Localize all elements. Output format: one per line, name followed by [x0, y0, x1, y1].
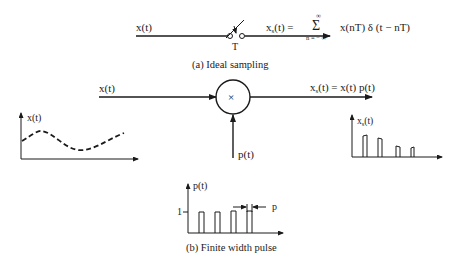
pulse-4	[247, 211, 252, 233]
sum-body: x(nT) δ (t − nT)	[340, 21, 410, 34]
ideal-sampling-block	[136, 20, 330, 39]
sum-symbol: Σ	[312, 18, 320, 33]
output-eq-b: xs(t) = x(t) p(t)	[310, 81, 375, 95]
sampled-pulse-3	[396, 146, 400, 157]
pulse-amplitude-label: 1	[177, 206, 182, 217]
sampled-pulse-4	[411, 147, 414, 157]
sampled-pulse-2	[378, 138, 382, 157]
input-label-b: x(t)	[99, 82, 115, 95]
pulse-width-label: p	[272, 201, 277, 212]
input-label-a: x(t)	[136, 21, 152, 34]
output-eq-lhs: xs(t) =	[266, 21, 294, 35]
input-plot-ylabel: x(t)	[27, 112, 41, 124]
pulse-plot-ylabel: p(t)	[193, 180, 207, 192]
sampling-diagram: x(t) T xs(t) = ∞ Σ n = − ∞ x(nT) δ (t − …	[0, 0, 461, 266]
sum-lower-limit: n = − ∞	[306, 34, 326, 41]
pulse-1	[199, 212, 204, 233]
pulse-2	[215, 212, 220, 233]
continuous-signal-curve	[22, 131, 124, 150]
pulse-train-plot	[183, 184, 283, 233]
caption-a: (a) Ideal sampling	[192, 59, 269, 71]
switch-contact-right	[240, 34, 245, 39]
multiply-icon: ×	[228, 91, 234, 103]
pulse-3	[231, 211, 236, 233]
output-plot-ylabel: xs(t)	[357, 116, 373, 127]
caption-b: (b) Finite width pulse	[186, 242, 277, 254]
switch-period-label: T	[232, 41, 238, 52]
sampled-pulse-1	[363, 135, 367, 157]
pulse-input-label: p(t)	[238, 148, 254, 161]
